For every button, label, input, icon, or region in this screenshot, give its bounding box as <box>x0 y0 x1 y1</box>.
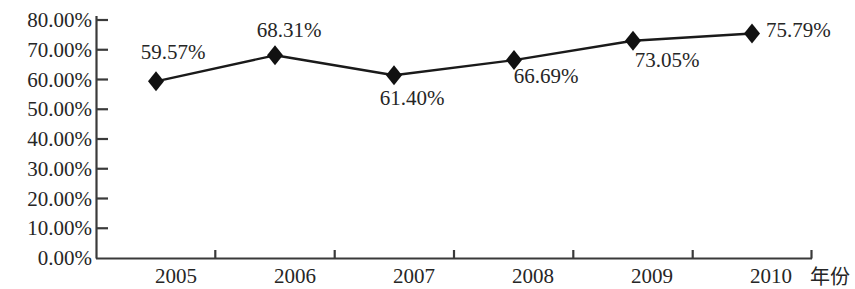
data-point-2010 <box>744 24 760 44</box>
y-axis-ticks <box>97 20 109 228</box>
line-chart: 80.00% 70.00% 60.00% 50.00% 40.00% 30.00… <box>0 0 855 289</box>
series-line <box>156 34 752 82</box>
plot-area <box>0 0 855 289</box>
data-point-2007 <box>386 65 402 85</box>
data-point-2008 <box>506 50 522 70</box>
data-point-2006 <box>267 45 283 65</box>
x-axis-ticks <box>215 250 811 259</box>
data-point-2009 <box>625 31 641 51</box>
series-markers <box>148 24 760 92</box>
data-point-2005 <box>148 71 164 91</box>
